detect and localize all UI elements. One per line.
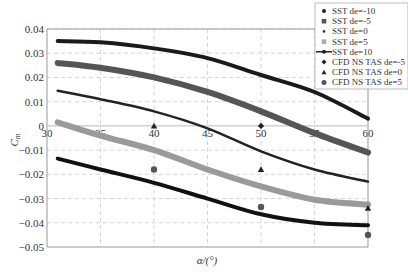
triangle-marker [258,166,264,172]
y-axis-label: Cm [8,133,22,146]
legend-item: CFD NS TAS de=5 [322,77,403,87]
legend-label: SST de=0 [332,26,368,36]
legend-label: CFD NS TAS de=0 [332,67,402,77]
circle-marker [151,166,157,172]
y-tick-label: −0.02 [19,168,44,180]
y-tick-label: −0.03 [19,193,45,205]
legend-label: CFD NS TAS de=-5 [332,57,405,67]
legend-item: CFD NS TAS de=-5 [322,57,406,67]
legend-label: SST de=5 [332,37,368,47]
y-tick-label: 0.03 [25,47,45,59]
circle-marker [322,80,327,85]
y-tick-label: 0.01 [25,96,44,108]
y-tick-label: −0.01 [19,144,44,156]
x-tick-label: 40 [149,127,161,139]
legend-label: SST de=10 [332,47,373,57]
y-tick-label: −0.05 [19,241,45,253]
legend-label: SST de=-10 [332,6,376,16]
legend-label: CFD NS TAS de=5 [332,77,402,87]
legend: SST de=-10SST de=-5SST de=0SST de=5SST d… [315,3,408,89]
chart: 0.040.030.020.010−0.01−0.02−0.03−0.04−0.… [0,0,408,275]
y-tick-label: −0.04 [19,217,45,229]
y-tick-label: 0.04 [25,23,45,35]
circle-marker [365,232,371,238]
legend-label: SST de=-5 [332,16,371,26]
circle-marker [258,204,264,210]
x-axis-label: α/(°) [197,254,218,267]
legend-item: CFD NS TAS de=0 [322,67,403,77]
y-tick-label: 0.02 [25,71,44,83]
